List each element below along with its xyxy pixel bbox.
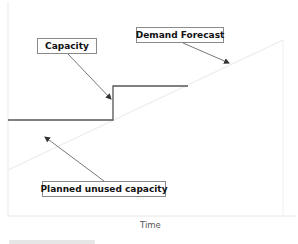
scrollbar[interactable] <box>9 240 95 244</box>
capacity-arrow <box>68 54 111 99</box>
planned-unused-capacity-label: Planned unused capacity <box>42 181 166 197</box>
demand-forecast-label: Demand Forecast <box>136 27 224 43</box>
planned-unused-arrow <box>45 137 104 181</box>
capacity-step-line <box>8 86 188 120</box>
demand-forecast-arrow <box>183 43 229 63</box>
capacity-label: Capacity <box>37 38 97 54</box>
x-axis-label: Time <box>140 220 161 230</box>
demand-forecast-line <box>8 40 283 170</box>
